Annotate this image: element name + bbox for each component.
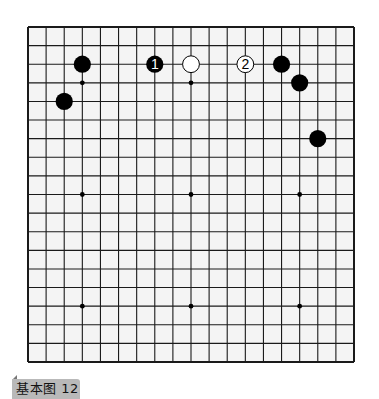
black-stone: [291, 74, 308, 91]
black-stone: [273, 56, 290, 73]
go-board: 12: [0, 0, 379, 375]
black-stone: [56, 93, 73, 110]
star-point: [297, 304, 302, 309]
star-point: [80, 192, 85, 197]
black-stone: [74, 56, 91, 73]
white-stone: [183, 56, 200, 73]
star-point: [189, 304, 194, 309]
black-stone: [309, 130, 326, 147]
star-point: [80, 80, 85, 85]
board-grid: 12: [0, 0, 379, 375]
star-point: [189, 80, 194, 85]
star-point: [80, 304, 85, 309]
move-number-label: 2: [241, 56, 249, 72]
diagram-caption: 基本图 12: [12, 379, 80, 399]
move-number-label: 1: [151, 56, 159, 72]
star-point: [297, 192, 302, 197]
star-point: [189, 192, 194, 197]
